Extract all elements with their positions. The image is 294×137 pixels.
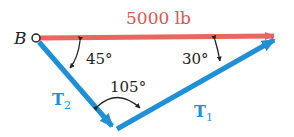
force-arrow: [40, 36, 274, 38]
angle-arc-30: [215, 40, 220, 61]
t1-label: T1: [194, 104, 213, 123]
force-label: 5000 lb: [126, 10, 191, 27]
point-b-label: B: [14, 30, 27, 47]
angle-label-45: 45°: [86, 52, 113, 67]
t2-label: T2: [52, 92, 71, 111]
angle-arc-45: [70, 41, 80, 68]
t1-subscript: 1: [206, 111, 213, 124]
angle-label-105: 105°: [110, 80, 146, 95]
angle-arc-105: [98, 97, 140, 108]
point-b-circle: [32, 34, 40, 42]
force-triangle-diagram: B 5000 lb 45° 30° 105° T2 T1: [0, 0, 294, 137]
t2-subscript: 2: [64, 99, 71, 112]
angle-label-30: 30°: [182, 52, 209, 67]
t2-name: T: [52, 90, 64, 109]
t1-name: T: [194, 102, 206, 121]
